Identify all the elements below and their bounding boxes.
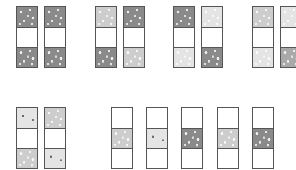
tile-strip xyxy=(111,107,133,169)
textured-tile xyxy=(174,7,194,27)
textured-tile xyxy=(281,47,296,67)
empty-tile xyxy=(45,128,65,148)
textured-tile xyxy=(253,128,273,148)
textured-tile xyxy=(45,7,65,27)
textured-tile xyxy=(96,7,116,27)
empty-tile xyxy=(174,27,194,47)
textured-tile xyxy=(202,7,222,27)
empty-tile xyxy=(182,108,202,128)
textured-tile xyxy=(17,47,37,67)
tile-strip xyxy=(16,107,38,169)
tile-strip xyxy=(201,6,223,68)
textured-tile xyxy=(124,7,144,27)
empty-tile xyxy=(218,108,238,128)
tile-strip xyxy=(123,6,145,68)
textured-tile xyxy=(124,47,144,67)
textured-tile xyxy=(17,108,37,128)
tile-strip xyxy=(44,107,66,169)
textured-tile xyxy=(45,148,65,168)
tile-strip xyxy=(95,6,117,68)
textured-tile xyxy=(45,108,65,128)
tile-strip xyxy=(252,6,274,68)
empty-tile xyxy=(17,128,37,148)
textured-tile xyxy=(202,47,222,67)
textured-tile xyxy=(17,7,37,27)
empty-tile xyxy=(17,27,37,47)
empty-tile xyxy=(281,27,296,47)
textured-tile xyxy=(281,7,296,27)
textured-tile xyxy=(96,47,116,67)
tile-strip xyxy=(173,6,195,68)
empty-tile xyxy=(96,27,116,47)
tile-strip xyxy=(181,107,203,169)
textured-tile xyxy=(253,7,273,27)
empty-tile xyxy=(112,108,132,128)
textured-tile xyxy=(174,47,194,67)
tile-strip xyxy=(252,107,274,169)
empty-tile xyxy=(147,148,167,168)
empty-tile xyxy=(253,108,273,128)
empty-tile xyxy=(253,27,273,47)
textured-tile xyxy=(45,47,65,67)
empty-tile xyxy=(45,27,65,47)
empty-tile xyxy=(182,148,202,168)
textured-tile xyxy=(112,128,132,148)
empty-tile xyxy=(253,148,273,168)
textured-tile xyxy=(147,128,167,148)
tile-strip xyxy=(146,107,168,169)
empty-tile xyxy=(112,148,132,168)
textured-tile xyxy=(17,148,37,168)
empty-tile xyxy=(147,108,167,128)
tile-strip xyxy=(44,6,66,68)
tile-strip xyxy=(217,107,239,169)
textured-tile xyxy=(218,128,238,148)
tile-strip xyxy=(16,6,38,68)
tile-strip xyxy=(280,6,296,68)
empty-tile xyxy=(218,148,238,168)
textured-tile xyxy=(182,128,202,148)
empty-tile xyxy=(124,27,144,47)
empty-tile xyxy=(202,27,222,47)
textured-tile xyxy=(253,47,273,67)
